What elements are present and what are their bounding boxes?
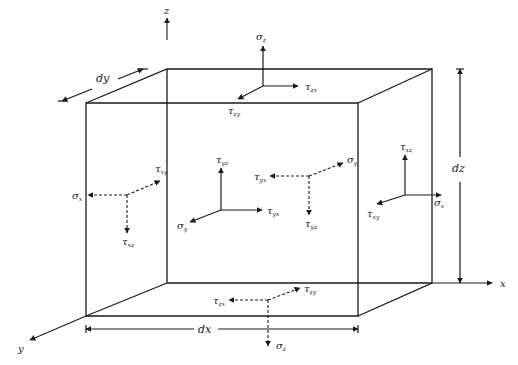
tau-yz-label: τyz bbox=[216, 154, 229, 167]
cube-rear-edge bbox=[86, 283, 167, 316]
dy-label: dy bbox=[96, 72, 110, 85]
tau-xz-label: τxz bbox=[400, 141, 413, 153]
tau-zy-arrow bbox=[238, 86, 263, 99]
sigma-y-arrow bbox=[190, 210, 221, 222]
stress-components: σzτzxτzyσxτxyτxzτyzτyxσyτyxσyτyzτxzσxτxy… bbox=[72, 31, 445, 352]
cube-edge-top-right bbox=[358, 69, 432, 103]
sigma-x-label: σx bbox=[434, 197, 445, 209]
y-axis-line bbox=[30, 316, 86, 340]
cube-element bbox=[86, 69, 432, 316]
dz-label: dz bbox=[452, 162, 465, 175]
tau-zy-label: τzy bbox=[228, 105, 241, 118]
stress-group-top-face: σzτzxτzy bbox=[228, 31, 318, 118]
stress-element-diagram: zxy dxdydz σzτzxτzyσxτxyτxzτyzτyxσyτyxσy… bbox=[0, 0, 518, 365]
y-axis-label: y bbox=[17, 343, 24, 354]
dy-dimension-line bbox=[62, 89, 92, 101]
sigma-z-label: σz bbox=[276, 340, 287, 352]
tau-xy-arrow bbox=[377, 195, 405, 204]
stress-group-right-face: τxzσxτxy bbox=[367, 141, 445, 221]
tau-yx-label: τyx bbox=[267, 205, 280, 218]
sigma-x-label: σx bbox=[72, 190, 83, 202]
cube-top-right-edges bbox=[86, 69, 432, 316]
tau-zx-label: τzx bbox=[213, 295, 226, 307]
tau-xy-label: τxy bbox=[367, 208, 380, 221]
stress-group-bottom-face: τzxτzyσz bbox=[213, 283, 317, 352]
dy-dimension-line bbox=[118, 69, 143, 79]
tau-zx-label: τzx bbox=[305, 81, 318, 93]
stress-group-back-face: τyxσyτyz bbox=[254, 154, 358, 231]
tau-zy-label: τzy bbox=[304, 283, 317, 296]
sigma-z-label: σz bbox=[256, 31, 267, 43]
z-axis-label: z bbox=[163, 5, 170, 16]
dx-label: dx bbox=[198, 323, 212, 336]
tau-xy-arrow bbox=[127, 181, 160, 195]
sigma-y-label: σy bbox=[177, 220, 188, 233]
x-axis-label: x bbox=[500, 278, 506, 289]
tau-yz-label: τyz bbox=[305, 218, 318, 231]
tau-xz-label: τxz bbox=[122, 236, 135, 248]
tau-zy-arrow bbox=[268, 288, 300, 300]
tau-yx-label: τyx bbox=[254, 171, 267, 184]
stress-group-front-face: τyzτyxσy bbox=[177, 154, 280, 233]
sigma-y-arrow bbox=[309, 163, 343, 176]
tau-xy-label: τxy bbox=[155, 163, 168, 176]
sigma-y-label: σy bbox=[347, 154, 358, 167]
